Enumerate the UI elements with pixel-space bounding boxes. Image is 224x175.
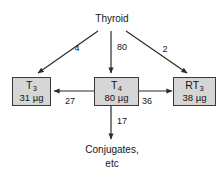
thyroid-source-label: Thyroid (0, 13, 224, 24)
node-t3-name: T3 (26, 79, 37, 92)
node-box-t3: T3 31 µg (12, 77, 51, 106)
edge-thyroid-to-rt3 (126, 31, 187, 73)
edge-label-thyroid-to-t4: 80 (114, 42, 130, 52)
edge-label-t4-to-t3: 27 (62, 96, 78, 106)
edge-label-thyroid-to-t3: 4 (70, 43, 84, 53)
conjugates-sink-line1: Conjugates, (0, 143, 224, 157)
node-t4-amount: 80 µg (105, 93, 129, 104)
edge-label-t4-to-rt3: 36 (139, 96, 155, 106)
node-t4-name: T4 (111, 79, 122, 92)
edge-thyroid-to-t3 (38, 31, 98, 73)
thyroid-hormone-flow-diagram: Thyroid T3 31 µg T4 80 µg RT3 38 µg Conj… (0, 0, 224, 175)
conjugates-sink-label: Conjugates, etc (0, 143, 224, 170)
edge-label-thyroid-to-rt3: 2 (158, 44, 172, 54)
conjugates-sink-line2: etc (0, 157, 224, 171)
node-box-rt3: RT3 38 µg (173, 77, 216, 106)
node-rt3-name: RT3 (185, 79, 204, 92)
edge-label-t4-to-sink: 17 (114, 116, 130, 126)
node-t3-amount: 31 µg (20, 93, 44, 104)
node-box-t4: T4 80 µg (94, 77, 139, 106)
node-rt3-amount: 38 µg (183, 93, 207, 104)
